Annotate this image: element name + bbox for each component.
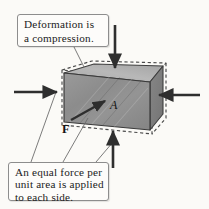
callout-deformation-line-1: Deformation is xyxy=(24,18,103,32)
callout-deformation: Deformation is a compression. xyxy=(17,14,109,47)
block-front-face xyxy=(64,73,150,130)
compression-figure: Deformation is a compression. An equal f… xyxy=(0,0,209,209)
force-label: F xyxy=(62,122,70,137)
callout-deformation-line-2: a compression. xyxy=(24,32,103,46)
callout-equal-force-line-2: unit area is applied xyxy=(15,178,104,190)
leader-force-right xyxy=(96,142,113,162)
leader-force-left xyxy=(31,92,56,162)
deformed-block xyxy=(64,64,163,130)
callout-equal-force: An equal force per unit area is applied … xyxy=(8,162,109,201)
area-label: A xyxy=(110,98,117,113)
callout-equal-force-line-3: to each side. xyxy=(15,191,104,203)
callout-equal-force-line-1: An equal force per xyxy=(15,166,104,178)
leader-deformation xyxy=(74,47,84,67)
